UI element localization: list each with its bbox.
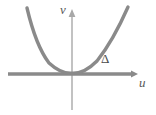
horizontal-axis-arrow-icon bbox=[131, 71, 138, 78]
figure-canvas bbox=[0, 0, 156, 115]
vertical-axis-arrow-icon bbox=[69, 9, 76, 17]
parabola-figure: v u Δ bbox=[0, 0, 156, 115]
parabola-curve bbox=[27, 7, 128, 73]
vertical-axis-label: v bbox=[60, 3, 66, 16]
horizontal-axis-label: u bbox=[139, 76, 146, 89]
vertical-axis bbox=[69, 9, 76, 110]
delta-symbol: Δ bbox=[101, 52, 109, 65]
